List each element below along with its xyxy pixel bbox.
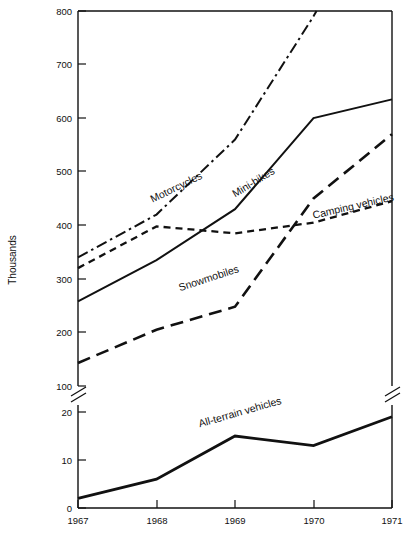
axis-break-right	[384, 386, 401, 402]
series-label-mini-bikes: Mini-bikes	[230, 165, 277, 200]
x-tick-label-1967: 1967	[67, 515, 88, 526]
y-tick-label-0: 0	[67, 503, 72, 514]
x-ticks: 1967 1968 1969 1970 1971	[67, 500, 402, 526]
y-tick-label-600: 600	[56, 113, 72, 124]
x-tick-label-1968: 1968	[146, 515, 167, 526]
y-tick-label-100: 100	[56, 381, 72, 392]
line-chart-svg: 800 700 600 500 400 300 200 100 20 10 0 …	[0, 0, 415, 537]
y-tick-label-500: 500	[56, 166, 72, 177]
series-label-camping-vehicles: Camping vehicles	[311, 190, 394, 220]
y-tick-label-200: 200	[56, 327, 72, 338]
y-ticks-upper: 800 700 600 500 400 300 200 100	[56, 6, 86, 392]
series-line-all-terrain-vehicles	[78, 417, 392, 499]
y-tick-label-10: 10	[61, 455, 72, 466]
series-line-motorcycles	[78, 11, 317, 257]
y-axis-title: Thousands	[7, 235, 18, 284]
y-tick-label-300: 300	[56, 274, 72, 285]
series-label-snowmobiles: Snowmobiles	[177, 262, 240, 293]
x-tick-label-1970: 1970	[303, 515, 324, 526]
x-tick-label-1971: 1971	[381, 515, 402, 526]
x-tick-label-1969: 1969	[224, 515, 245, 526]
series-line-snowmobiles	[78, 134, 392, 363]
series-paths	[78, 11, 392, 498]
series-label-all-terrain-vehicles: All-terrain vehicles	[197, 394, 283, 429]
y-tick-label-400: 400	[56, 220, 72, 231]
axis-break-left	[70, 386, 87, 402]
chart-figure: 800 700 600 500 400 300 200 100 20 10 0 …	[0, 0, 415, 537]
series-label-motorcycles: Motorcycles	[148, 169, 204, 204]
y-tick-label-800: 800	[56, 6, 72, 17]
y-tick-label-700: 700	[56, 59, 72, 70]
y-tick-label-20: 20	[61, 407, 72, 418]
series-labels: Motorcycles Mini-bikes Camping vehicles …	[148, 165, 395, 430]
